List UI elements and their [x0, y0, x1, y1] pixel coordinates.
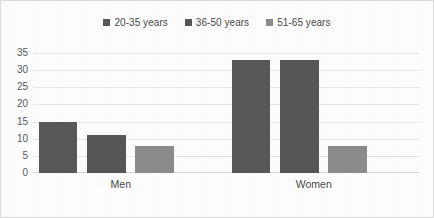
bar-chart-figure: 20-35 years36-50 years51-65 years 353025… [0, 0, 434, 218]
bar-women-series1[interactable] [232, 60, 271, 173]
y-axis-tick-label: 35 [17, 48, 28, 58]
category-label-women: Women [296, 178, 332, 190]
chart-legend: 20-35 years36-50 years51-65 years [1, 17, 433, 28]
bar-men-series1[interactable] [39, 122, 78, 173]
gridline [33, 87, 419, 88]
legend-label: 36-50 years [196, 17, 249, 28]
y-axis-tick-label: 15 [17, 117, 28, 127]
bar-women-series2[interactable] [280, 60, 319, 173]
bar-men-series3[interactable] [135, 146, 174, 173]
y-axis-tick-label: 5 [22, 151, 28, 161]
y-axis-tick-label: 25 [17, 82, 28, 92]
gridline [33, 122, 419, 123]
bar-women-series3[interactable] [328, 146, 367, 173]
y-axis-tick-label: 30 [17, 65, 28, 75]
plot-area [33, 53, 419, 173]
legend-swatch-icon [266, 19, 273, 26]
legend-label: 20-35 years [114, 17, 167, 28]
legend-item-3[interactable]: 51-65 years [266, 17, 330, 28]
y-axis-tick-labels: 35302520151050 [1, 53, 28, 173]
legend-item-1[interactable]: 20-35 years [103, 17, 167, 28]
legend-swatch-icon [103, 19, 110, 26]
category-label-men: Men [111, 178, 131, 190]
gridline [33, 104, 419, 105]
legend-label: 51-65 years [277, 17, 330, 28]
y-axis-tick-label: 0 [22, 168, 28, 178]
x-axis-category-labels: MenWomen [33, 178, 419, 194]
bar-men-series2[interactable] [87, 135, 126, 173]
y-axis-tick-label: 10 [17, 134, 28, 144]
gridline [33, 53, 419, 54]
y-axis-tick-label: 20 [17, 99, 28, 109]
legend-item-2[interactable]: 36-50 years [185, 17, 249, 28]
gridline [33, 70, 419, 71]
legend-swatch-icon [185, 19, 192, 26]
